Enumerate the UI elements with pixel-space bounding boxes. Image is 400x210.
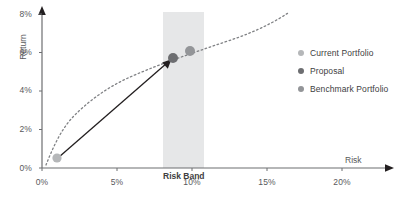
x-tick-label-0: 0% bbox=[22, 177, 62, 187]
y-tick-label-2: 2% bbox=[2, 124, 32, 134]
x-axis-arrowhead bbox=[385, 164, 394, 172]
legend-marker-icon-current-portfolio bbox=[298, 50, 304, 56]
x-axis-title: Risk bbox=[345, 155, 362, 165]
data-point-proposal[interactable] bbox=[168, 53, 178, 63]
legend-item-current-portfolio[interactable]: Current Portfolio bbox=[298, 44, 398, 62]
legend-label-benchmark-portfolio: Benchmark Portfolio bbox=[310, 84, 388, 94]
legend-marker-icon-proposal bbox=[298, 68, 304, 74]
y-tick-label-0: 0% bbox=[2, 163, 32, 173]
legend-item-benchmark-portfolio[interactable]: Benchmark Portfolio bbox=[298, 80, 398, 98]
y-tick-label-4: 4% bbox=[2, 85, 32, 95]
improvement-arrow-shaft bbox=[59, 63, 167, 157]
x-tick-label-15: 15% bbox=[247, 177, 287, 187]
chart-legend: Current Portfolio Proposal Benchmark Por… bbox=[298, 44, 398, 98]
risk-return-chart: 8% 6% 4% 2% 0% 0% 5% 10% 15% 20% Return … bbox=[0, 0, 400, 210]
data-point-current-portfolio[interactable] bbox=[52, 153, 61, 162]
x-tick-label-20: 20% bbox=[322, 177, 362, 187]
risk-band-label: Risk Band bbox=[163, 171, 205, 181]
x-tick-label-5: 5% bbox=[97, 177, 137, 187]
legend-marker-icon-benchmark-portfolio bbox=[298, 86, 304, 92]
legend-item-proposal[interactable]: Proposal bbox=[298, 62, 398, 80]
legend-label-proposal: Proposal bbox=[310, 66, 344, 76]
legend-label-current-portfolio: Current Portfolio bbox=[310, 48, 374, 58]
y-axis-title: Return bbox=[18, 17, 28, 77]
data-point-benchmark-portfolio[interactable] bbox=[185, 46, 195, 56]
risk-band-region bbox=[163, 12, 204, 168]
